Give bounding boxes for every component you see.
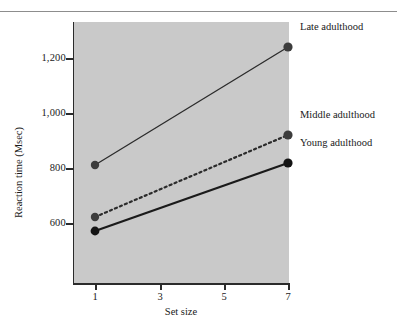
- data-point-young-7: [283, 158, 292, 167]
- series-line-young: [95, 163, 288, 231]
- series-label-middle: Middle adulthood: [300, 109, 375, 120]
- data-point-late-7: [283, 42, 292, 51]
- series-label-young: Young adulthood: [300, 137, 372, 148]
- series-layer: [0, 0, 397, 327]
- data-point-middle-7: [283, 130, 292, 139]
- data-point-late-1: [91, 161, 99, 169]
- data-point-young-1: [91, 227, 100, 236]
- figure-container: 1,200 1,000 800 600 1 3 5 7 Reaction tim…: [0, 0, 397, 327]
- data-point-middle-1: [91, 213, 99, 221]
- series-label-late: Late adulthood: [300, 21, 363, 32]
